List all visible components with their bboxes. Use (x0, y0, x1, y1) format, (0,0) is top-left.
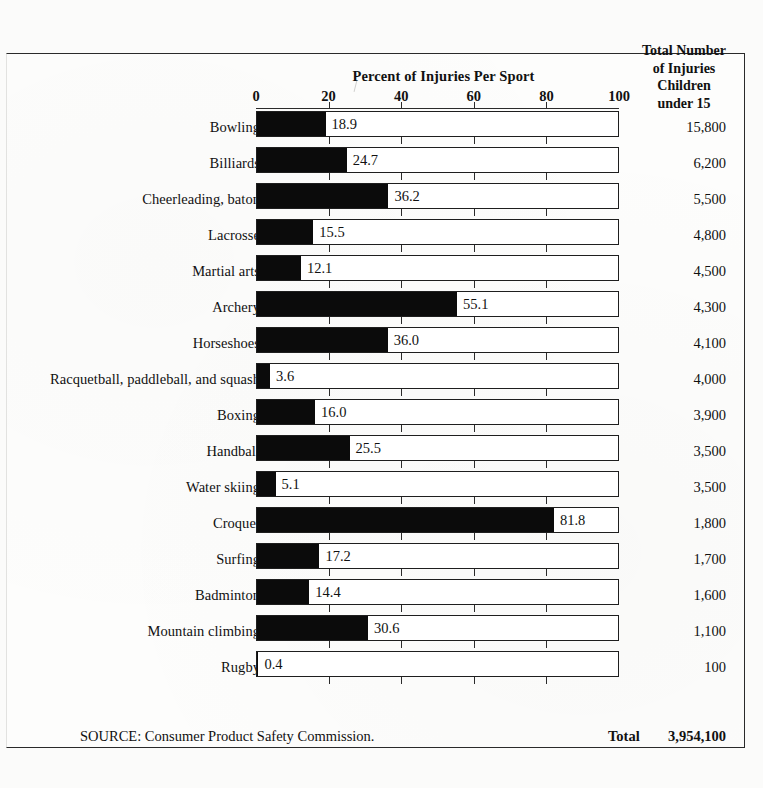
bar-value-label: 3.6 (270, 368, 294, 385)
bar-row: Bowling18.915,800 (0, 109, 739, 145)
tick-mark-60 (474, 281, 475, 288)
bar-row: Handball25.53,500 (0, 433, 739, 469)
bar-value-label: 36.0 (388, 332, 419, 349)
tick-mark-20 (329, 461, 330, 468)
tick-mark-20 (329, 641, 330, 648)
tick-mark-20 (329, 425, 330, 432)
tick-mark-40 (401, 281, 402, 288)
tick-mark-80 (546, 677, 547, 684)
bar-fill (257, 580, 309, 604)
bar-value-label: 17.2 (319, 548, 350, 565)
bar-value-label: 5.1 (276, 476, 300, 493)
tick-mark-60 (474, 137, 475, 144)
bar-row-label: Martial arts (192, 263, 260, 280)
bar-row-label: Badminton (195, 587, 260, 604)
bar-row: Martial arts12.14,500 (0, 253, 739, 289)
total-injuries-value: 3,500 (628, 443, 726, 460)
bar-fill (257, 472, 276, 496)
tick-mark-60 (474, 389, 475, 396)
bar-track: 55.1 (256, 291, 619, 317)
total-injuries-value: 3,900 (628, 407, 726, 424)
tick-mark-80 (546, 533, 547, 540)
bar-track: 3.6 (256, 363, 619, 389)
bar-row-label: Handball (206, 443, 260, 460)
tick-mark-60 (474, 353, 475, 360)
tick-mark-40 (401, 209, 402, 216)
bar-row-label: Bowling (210, 119, 260, 136)
tick-mark-20 (329, 569, 330, 576)
row-gap-ticks (256, 173, 619, 181)
total-injuries-value: 4,100 (628, 335, 726, 352)
bar-fill (257, 400, 315, 424)
tick-mark-80 (546, 641, 547, 648)
bar-row: Archery55.14,300 (0, 289, 739, 325)
bar-track: 12.1 (256, 255, 619, 281)
bar-value-label: 25.5 (350, 440, 381, 457)
row-gap-ticks (256, 677, 619, 685)
bar-value-label: 0.4 (258, 656, 282, 673)
tick-mark-20 (329, 389, 330, 396)
tick-mark-40 (401, 389, 402, 396)
bar-track: 18.9 (256, 111, 619, 137)
row-gap-ticks (256, 245, 619, 253)
bar-value-label: 55.1 (457, 296, 488, 313)
tick-mark-80 (546, 605, 547, 612)
source-note: SOURCE: Consumer Product Safety Commissi… (80, 728, 374, 745)
bar-row: Water skiing5.13,500 (0, 469, 739, 505)
bar-fill (257, 220, 313, 244)
bar-row-label: Rugby (221, 659, 260, 676)
tick-mark-40 (401, 353, 402, 360)
tick-mark-60 (474, 569, 475, 576)
row-gap-ticks (256, 533, 619, 541)
tick-mark-40 (401, 569, 402, 576)
tick-mark-60 (474, 317, 475, 324)
bar-row-label: Racquetball, paddleball, and squash (50, 371, 260, 388)
tick-mark-40 (401, 137, 402, 144)
bar-value-label: 18.9 (326, 116, 357, 133)
bar-track: 5.1 (256, 471, 619, 497)
total-value: 3,954,100 (656, 728, 726, 745)
bar-row-label: Cheerleading, baton (142, 191, 260, 208)
bar-value-label: 36.2 (388, 188, 419, 205)
tick-mark-60 (474, 245, 475, 252)
row-gap-ticks (256, 605, 619, 613)
bar-value-label: 14.4 (309, 584, 340, 601)
row-gap-ticks (256, 425, 619, 433)
row-gap-ticks (256, 137, 619, 145)
tick-mark-40 (401, 461, 402, 468)
header-line-1: Total Number (628, 42, 740, 60)
total-label: Total (608, 728, 640, 745)
tick-mark-40 (401, 677, 402, 684)
bar-row: Lacrosse15.54,800 (0, 217, 739, 253)
bar-track: 36.0 (256, 327, 619, 353)
bar-fill (257, 148, 347, 172)
tick-mark-20 (329, 245, 330, 252)
bar-fill (257, 436, 350, 460)
bar-fill (257, 544, 319, 568)
bar-track: 24.7 (256, 147, 619, 173)
header-line-2: of Injuries (628, 60, 740, 78)
bar-fill (257, 328, 388, 352)
bar-value-label: 81.8 (554, 512, 585, 529)
bar-row: Boxing16.03,900 (0, 397, 739, 433)
tick-mark-60 (474, 497, 475, 504)
tick-mark-40 (401, 245, 402, 252)
total-injuries-value: 1,700 (628, 551, 726, 568)
bar-row: Cheerleading, baton36.25,500 (0, 181, 739, 217)
bar-track: 14.4 (256, 579, 619, 605)
row-gap-ticks (256, 569, 619, 577)
tick-mark-80 (546, 281, 547, 288)
tick-mark-20 (329, 353, 330, 360)
bar-row-label: Billiards (210, 155, 260, 172)
tick-mark-60 (474, 209, 475, 216)
bar-row-label: Archery (212, 299, 260, 316)
tick-mark-60 (474, 461, 475, 468)
chart-title: Percent of Injuries Per Sport (262, 68, 625, 85)
bar-row: Racquetball, paddleball, and squash3.64,… (0, 361, 739, 397)
row-gap-ticks (256, 281, 619, 289)
row-gap-ticks (256, 641, 619, 649)
bar-value-label: 12.1 (301, 260, 332, 277)
tick-mark-40 (401, 641, 402, 648)
tick-mark-20 (329, 497, 330, 504)
total-injuries-value: 4,300 (628, 299, 726, 316)
